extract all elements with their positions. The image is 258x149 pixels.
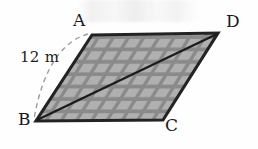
vertex-label-c: C xyxy=(165,117,178,134)
side-length-label: 12 m xyxy=(20,50,59,65)
parallelogram-diagram xyxy=(0,0,258,149)
vertex-label-b: B xyxy=(18,111,31,128)
vertex-label-d: D xyxy=(226,13,240,30)
geometry-figure: A D C B 12 m xyxy=(0,0,258,149)
vertex-label-a: A xyxy=(73,12,85,29)
